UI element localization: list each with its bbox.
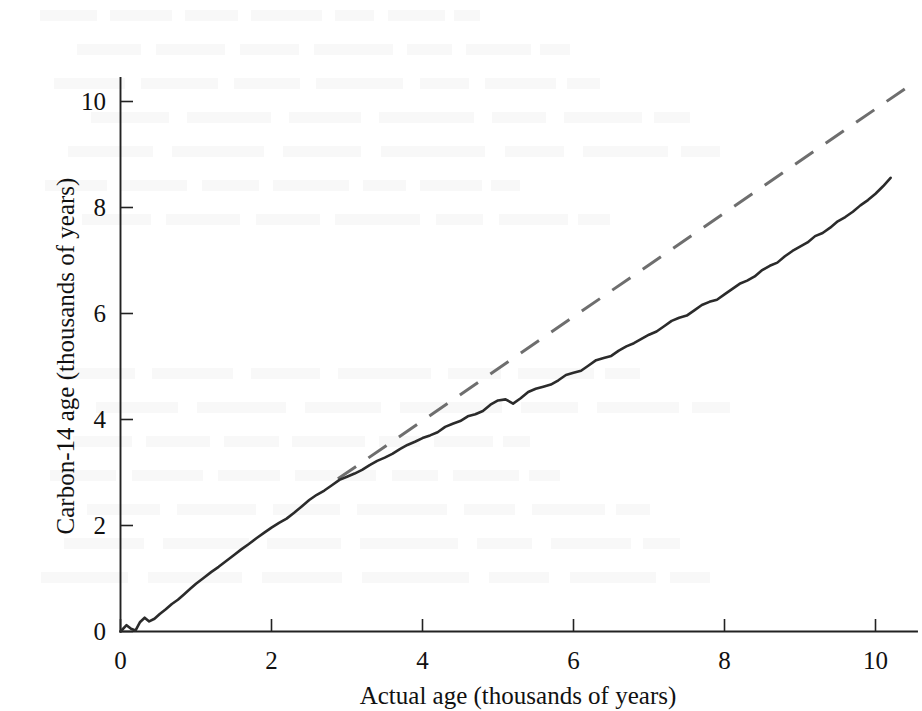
y-tick-label: 10 [81, 88, 106, 115]
calibration-curve-line [121, 178, 891, 632]
y-tick-marks [121, 102, 133, 632]
x-tick-label: 0 [114, 647, 127, 674]
x-tick-label: 6 [567, 647, 580, 674]
y-tick-label: 6 [94, 300, 107, 327]
x-tick-label: 8 [718, 647, 731, 674]
y-tick-label: 4 [94, 406, 107, 433]
y-axis-title: Carbon-14 age (thousands of years) [52, 178, 80, 535]
y-tick-label: 0 [94, 618, 107, 645]
y-tick-label: 8 [94, 194, 107, 221]
x-tick-label: 4 [416, 647, 429, 674]
y-tick-label: 2 [94, 512, 107, 539]
x-axis-title: Actual age (thousands of years) [360, 682, 677, 710]
carbon14-calibration-chart: 0 2 4 6 8 10 0 2 4 6 8 10 Actual age (th… [40, 16, 922, 711]
y-tick-labels: 0 2 4 6 8 10 [81, 88, 107, 645]
plot-area: 0 2 4 6 8 10 0 2 4 6 8 10 Actual age (th… [40, 16, 922, 711]
x-tick-label: 10 [863, 647, 888, 674]
x-tick-label: 2 [265, 647, 278, 674]
reference-line-1-to-1 [338, 88, 906, 479]
x-tick-marks [121, 619, 876, 631]
x-tick-labels: 0 2 4 6 8 10 [114, 647, 888, 674]
